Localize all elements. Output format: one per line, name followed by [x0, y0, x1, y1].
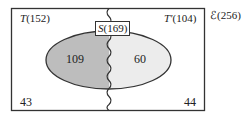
universe-label: ℰ(256): [210, 9, 241, 21]
region-t-not-s-count: 43: [20, 96, 32, 109]
set-t-label: T(152): [20, 12, 50, 24]
region-t-complement-not-s-count: 44: [184, 96, 196, 109]
set-s-count: (169): [104, 22, 128, 34]
set-t-complement-label: T'(104): [164, 12, 196, 24]
set-s-label: S(169): [95, 21, 130, 36]
set-t-count: (152): [26, 12, 50, 24]
set-t-complement-count: (104): [172, 12, 196, 24]
region-s-and-t-count: 109: [66, 53, 84, 66]
region-s-and-t-complement-count: 60: [134, 53, 146, 66]
